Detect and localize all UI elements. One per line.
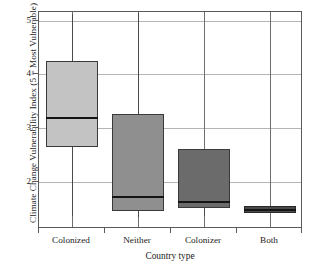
x-tick-label-both: Both xyxy=(234,235,304,246)
box-rect-colonized xyxy=(46,61,98,147)
x-tick-label-colonizer: Colonizer xyxy=(168,235,238,246)
boxplot-figure: Climate Change Vulnerability Index (5 = … xyxy=(0,0,311,269)
x-tick-mark-2 xyxy=(104,228,105,233)
box-colonized[interactable] xyxy=(39,12,105,227)
plot-area xyxy=(38,11,302,228)
y-tick-label-3: 3 xyxy=(20,123,31,132)
x-axis-title: Country type xyxy=(38,251,302,261)
y-axis-title: Climate Change Vulnerability Index (5 = … xyxy=(28,3,38,223)
x-tick-label-neither: Neither xyxy=(102,235,172,246)
x-tick-mark-1 xyxy=(38,228,39,233)
x-tick-label-colonized: Colonized xyxy=(36,235,106,246)
median-colonized xyxy=(46,117,98,119)
median-neither xyxy=(112,196,164,198)
median-colonizer xyxy=(178,201,230,203)
x-tick-mark-5 xyxy=(301,228,302,233)
x-tick-mark-3 xyxy=(170,228,171,233)
y-tick-label-5: 5 xyxy=(20,16,31,25)
y-tick-label-2: 2 xyxy=(20,177,31,186)
median-both xyxy=(244,209,296,211)
box-neither[interactable] xyxy=(105,12,171,227)
box-both[interactable] xyxy=(237,12,303,227)
x-tick-mark-4 xyxy=(236,228,237,233)
box-rect-colonizer xyxy=(178,149,230,208)
box-colonizer[interactable] xyxy=(171,12,237,227)
y-tick-label-4: 4 xyxy=(20,69,31,78)
